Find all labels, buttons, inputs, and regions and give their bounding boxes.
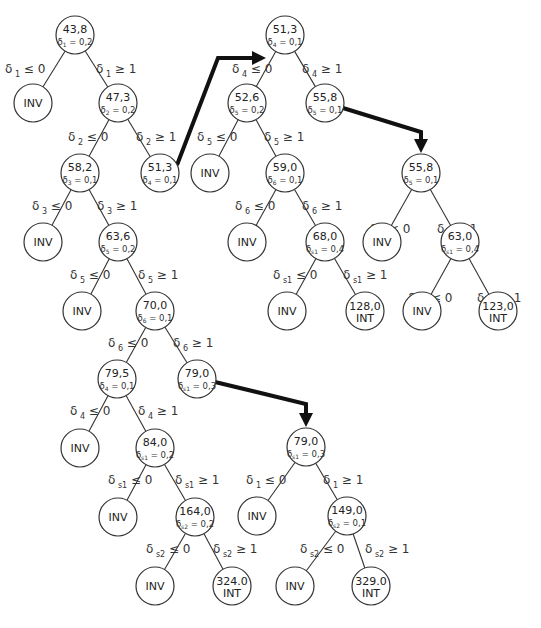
node-tag: INT (362, 587, 380, 600)
branch-node: 70,0δ6 = 0,1 (136, 292, 174, 330)
branch-condition-label: δ s2 ≤ 0 (146, 542, 190, 559)
node-value: 149,0 (331, 504, 363, 517)
node-value: INV (413, 305, 432, 318)
branch-condition-label: δ s1 ≤ 0 (108, 473, 152, 490)
branch-condition-label: δ 2 ≤ 0 (68, 130, 108, 147)
branch-condition-label: δ 4 ≥ 1 (302, 62, 342, 79)
node-value: 55,8 (409, 161, 434, 174)
branch-condition-label: δ s2 ≥ 1 (365, 542, 409, 559)
branch-node: 68,0δs1 = 0,4 (306, 223, 344, 261)
infeasible-node: INV (63, 292, 101, 330)
node-value: INV (146, 580, 165, 593)
node-value: 63,0 (448, 230, 473, 243)
node-value: 55,8 (313, 91, 338, 104)
node-value: 63,6 (106, 230, 131, 243)
branch-and-bound-tree: δ 1 ≤ 0δ 1 ≥ 1δ 2 ≤ 0δ 2 ≥ 1δ 3 ≤ 0δ 3 ≥… (0, 0, 541, 628)
branch-condition-label: δ 6 ≤ 0 (235, 199, 275, 216)
node-value: 70,0 (143, 299, 168, 312)
infeasible-node: INV (276, 567, 314, 605)
node-value: INV (71, 442, 90, 455)
arrowhead-icon (299, 413, 313, 427)
branch-condition-label: δ 5 ≥ 1 (138, 268, 178, 285)
branch-condition-label: δ 1 ≥ 1 (96, 62, 136, 79)
tree-nodes: 43,8δ1 = 0,2INV47,3δ2 = 0,258,2δ3 = 0,15… (14, 16, 517, 605)
branch-node: 63,0δs1 = 0,4 (441, 223, 479, 261)
node-value: 51,3 (148, 161, 173, 174)
infeasible-node: INV (238, 497, 276, 535)
branch-node: 164,0δs2 = 0,2 (176, 498, 214, 536)
node-value: INV (238, 236, 257, 249)
infeasible-node: INV (99, 498, 137, 536)
branch-node: 149,0δs2 = 0,1 (328, 497, 366, 535)
node-value: INV (24, 97, 43, 110)
infeasible-node: INV (14, 84, 52, 122)
node-value: INV (373, 236, 392, 249)
tree-edge (391, 190, 411, 226)
branch-condition-label: δ 5 ≤ 0 (70, 268, 110, 285)
integer-solution-node: 329.0INT (352, 567, 390, 605)
node-value: INV (286, 580, 305, 593)
integer-solution-node: 324.0INT (213, 567, 251, 605)
branch-condition-label: δ 6 ≤ 0 (108, 336, 148, 353)
node-value: INV (73, 305, 92, 318)
branch-condition-label: δ 3 ≥ 1 (97, 199, 137, 216)
arrowhead-icon (414, 139, 428, 153)
node-value: 79,0 (294, 435, 319, 448)
node-value: INV (34, 236, 53, 249)
branch-node: 79,0δs1 = 0,3 (287, 428, 325, 466)
branch-node: 51,3δ4 = 0,1 (141, 154, 179, 192)
node-value: 68,0 (313, 230, 338, 243)
branch-condition-label: δ 1 ≤ 0 (5, 62, 45, 79)
node-value: 59,0 (273, 161, 298, 174)
branch-node: 84,0δs1 = 0,2 (136, 429, 174, 467)
node-value: 47,3 (106, 91, 131, 104)
branch-node: 43,8δ1 = 0,2 (56, 16, 94, 54)
branch-condition-label: δ 5 ≤ 0 (197, 130, 237, 147)
branch-node: 79,5δ4 = 0,1 (98, 360, 136, 398)
branch-condition-label: δ s1 ≥ 1 (343, 268, 387, 285)
tree-edge (430, 190, 450, 226)
branch-condition-label: δ 4 ≤ 0 (70, 404, 110, 421)
branch-condition-label: δ 4 ≥ 1 (138, 404, 178, 421)
node-value: INV (201, 167, 220, 180)
branch-node: 63,6δ5 = 0,2 (99, 223, 137, 261)
node-value: INV (109, 511, 128, 524)
integer-solution-node: 123,0INT (479, 292, 517, 330)
node-value: INV (278, 305, 297, 318)
node-value: 79,5 (105, 367, 130, 380)
infeasible-node: INV (61, 429, 99, 467)
node-tag: INT (356, 312, 374, 325)
node-value: 43,8 (63, 23, 88, 36)
arrow-m3-to-p1-line (343, 108, 421, 143)
branch-condition-label: δ 2 ≥ 1 (136, 130, 176, 147)
branch-node: 58,2δ3 = 0,1 (61, 154, 99, 192)
branch-condition-label: δ 4 ≤ 0 (232, 62, 272, 79)
infeasible-node: INV (24, 223, 62, 261)
branch-condition-label: δ 3 ≤ 0 (32, 199, 72, 216)
branch-condition-label: δ 1 ≤ 0 (246, 473, 286, 490)
branch-condition-label: δ 1 ≥ 1 (323, 473, 363, 490)
tree-edge (469, 259, 489, 295)
infeasible-node: INV (228, 223, 266, 261)
branch-condition-label: δ s1 ≤ 0 (273, 268, 317, 285)
integer-solution-node: 128,0INT (346, 292, 384, 330)
node-value: 79,0 (185, 367, 210, 380)
tree-edge (43, 51, 65, 87)
infeasible-node: INV (363, 223, 401, 261)
node-value: 58,2 (68, 161, 93, 174)
branch-condition-label: δ s2 ≥ 1 (213, 542, 257, 559)
branch-node: 51,3δ4 = 0,1 (266, 16, 304, 54)
node-tag: INT (223, 587, 241, 600)
branch-node: 59,0δ6 = 0,1 (266, 154, 304, 192)
node-value: INV (248, 510, 267, 523)
branch-node: 47,3δ2 = 0,2 (99, 84, 137, 122)
branch-node: 55,8δ5 = 0,1 (402, 154, 440, 192)
branch-node: 52,6δ5 = 0,2 (228, 84, 266, 122)
arrow-n11-to-q1-line (215, 382, 306, 416)
node-tag: INT (489, 312, 507, 325)
infeasible-node: INV (268, 292, 306, 330)
infeasible-node: INV (191, 154, 229, 192)
branch-node: 55,8δ5 = 0,1 (306, 84, 344, 122)
infeasible-node: INV (403, 292, 441, 330)
node-value: 51,3 (273, 23, 298, 36)
